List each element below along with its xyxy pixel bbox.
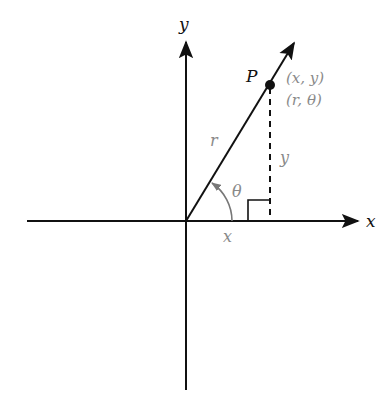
horizontal-leg-label: x	[223, 227, 232, 246]
right-angle-marker	[248, 200, 270, 221]
rect-coords-label: (x, y)	[286, 69, 324, 87]
polar-coords-label: (r, θ)	[286, 91, 322, 109]
point-p	[265, 80, 275, 90]
vertical-leg-label: y	[279, 148, 290, 167]
point-label: P	[245, 66, 258, 86]
x-axis-label: x	[366, 211, 376, 231]
radius-label: r	[210, 131, 219, 150]
angle-label: θ	[232, 182, 242, 201]
polar-coordinates-diagram: y x P (x, y) (r, θ) r θ x y	[0, 0, 392, 408]
y-axis-label: y	[178, 14, 189, 34]
angle-arc	[212, 183, 232, 221]
